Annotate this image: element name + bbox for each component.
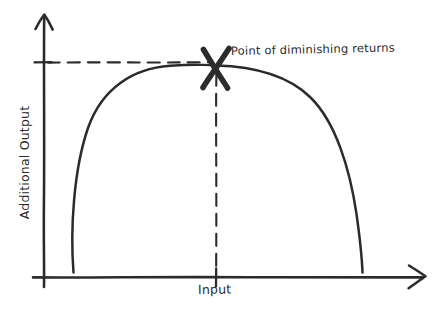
y-axis-label: Additional Output — [17, 103, 32, 223]
x-axis-label: Input — [198, 282, 232, 297]
sketch-chart-canvas: Point of diminishing returns Input Addit… — [0, 0, 440, 309]
output-curve — [72, 65, 362, 273]
